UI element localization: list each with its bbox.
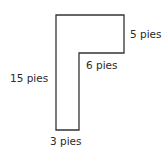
l-shape-diagram: 5 pies 6 pies 15 pies 3 pies bbox=[0, 0, 168, 157]
label-inner-step: 6 pies bbox=[86, 59, 118, 71]
label-left-side: 15 pies bbox=[10, 72, 48, 84]
label-right-side: 5 pies bbox=[130, 28, 162, 40]
label-bottom: 3 pies bbox=[50, 135, 82, 147]
l-shape-outline bbox=[56, 15, 124, 130]
